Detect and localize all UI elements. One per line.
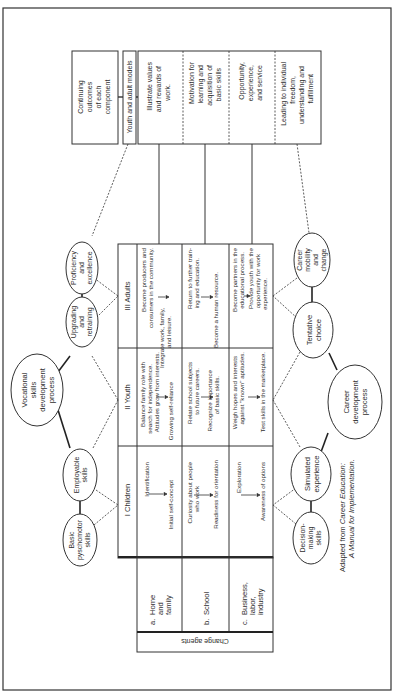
cell-youth-business: Weigh hopes and interests against "known… xyxy=(231,352,266,433)
svg-text:to future careers.: to future careers. xyxy=(193,368,200,415)
change-agent-school: b. School xyxy=(202,591,211,625)
change-agent-home-family: a. Home and family xyxy=(148,595,173,625)
cell-adults-home: Become producers and consumers in the co… xyxy=(140,247,172,368)
stage-header-youth: II Youth xyxy=(123,384,132,409)
svg-text:Illustrate values: Illustrate values xyxy=(146,62,153,111)
career-education-diagram: Continuing outcomes of each component Yo… xyxy=(0,0,394,693)
svg-text:Growing self-reliance: Growing self-reliance xyxy=(167,381,174,440)
svg-text:b.: b. xyxy=(202,619,211,625)
svg-text:Readiness for orientation: Readiness for orientation xyxy=(212,459,219,528)
svg-text:Return to further train-: Return to further train- xyxy=(186,248,193,309)
svg-text:c.: c. xyxy=(240,619,249,625)
svg-text:freedom,: freedom, xyxy=(289,76,296,104)
svg-text:Vocational: Vocational xyxy=(20,372,29,407)
svg-text:skills: skills xyxy=(84,532,91,548)
svg-text:experience: experience xyxy=(312,455,321,492)
citation: Adapted from Career Education: A Manual … xyxy=(338,459,356,572)
svg-text:component: component xyxy=(104,80,112,115)
node-tentative-choice-text: Tentative choice xyxy=(305,315,323,345)
change-agents-label: Change agents xyxy=(181,637,229,645)
svg-text:experience.: experience. xyxy=(261,278,268,310)
svg-text:Become a human resource.: Become a human resource. xyxy=(212,272,219,348)
svg-text:development: development xyxy=(351,379,360,423)
cell-adults-school: Return to further train- ing and educati… xyxy=(186,248,219,348)
svg-text:Exploration: Exploration xyxy=(235,461,242,493)
svg-text:Become partners in the: Become partners in the xyxy=(231,247,238,312)
svg-text:Provide youth with the: Provide youth with the xyxy=(247,247,254,308)
svg-text:and: and xyxy=(312,254,319,266)
svg-text:Curiosity about people: Curiosity about people xyxy=(186,461,193,523)
svg-text:making: making xyxy=(307,527,315,550)
svg-text:pyschomotor: pyschomotor xyxy=(76,519,84,560)
svg-text:skills: skills xyxy=(81,467,88,483)
svg-text:and rewards of: and rewards of xyxy=(155,66,162,112)
svg-text:Simulated: Simulated xyxy=(303,457,312,491)
svg-text:Decision-: Decision- xyxy=(299,523,306,553)
svg-text:Continuing: Continuing xyxy=(77,80,85,114)
outer-frame xyxy=(3,8,391,690)
outcome-illustrate-values: Illustrate values and rewards of work. xyxy=(146,62,171,113)
svg-text:educational process.: educational process. xyxy=(238,252,245,309)
cell-children-school: Curiosity about people who work Readines… xyxy=(186,459,219,528)
svg-text:Adapted from Career Education:: Adapted from Career Education: xyxy=(338,463,347,572)
svg-text:Motivation for: Motivation for xyxy=(188,61,195,104)
svg-text:Tentative: Tentative xyxy=(305,315,314,345)
svg-text:Upgrading: Upgrading xyxy=(70,306,78,338)
svg-text:Balance family role with: Balance family role with xyxy=(139,361,146,427)
cell-children-home: Identification Initial self-concept xyxy=(143,461,174,529)
svg-text:Basic: Basic xyxy=(68,531,75,549)
stage-header-children: I Children xyxy=(123,484,132,517)
svg-text:Attitudes grow from interests.: Attitudes grow from interests. xyxy=(153,352,160,432)
cell-youth-home: Balance family role with search for inde… xyxy=(139,352,174,440)
svg-text:process: process xyxy=(47,377,56,404)
outcome-motivation: Motivation for learning and acquisition … xyxy=(188,61,222,106)
svg-text:who work: who work xyxy=(193,485,200,513)
svg-text:Relate school subjects: Relate school subjects xyxy=(186,362,193,424)
svg-text:change: change xyxy=(320,248,328,271)
svg-text:choice: choice xyxy=(314,319,323,341)
svg-text:fulfillment: fulfillment xyxy=(307,74,314,104)
svg-text:ing and education.: ing and education. xyxy=(193,258,200,309)
svg-text:Awareness of options: Awareness of options xyxy=(259,462,266,521)
svg-text:mobility: mobility xyxy=(304,248,312,272)
svg-text:Become producers and: Become producers and xyxy=(140,247,147,312)
svg-text:Weigh hopes and interests: Weigh hopes and interests xyxy=(231,356,238,429)
svg-text:process: process xyxy=(360,389,369,416)
cell-children-business: Exploration Awareness of options xyxy=(235,461,266,521)
outcome-opportunity: Opportunity, experience, and service xyxy=(238,62,263,101)
svg-text:Test skills in the marketplace: Test skills in the marketplace. xyxy=(259,352,266,433)
svg-text:search for independence.: search for independence. xyxy=(146,364,153,434)
svg-text:Identification: Identification xyxy=(143,461,150,496)
svg-text:skills: skills xyxy=(29,382,38,399)
youth-adult-models-label: Youth and adult models xyxy=(126,60,133,133)
stage-header-adults: III Adults xyxy=(123,281,132,310)
node-employable-skills xyxy=(63,449,97,501)
svg-text:experience,: experience, xyxy=(247,65,255,101)
svg-text:Career: Career xyxy=(296,249,303,271)
svg-text:Employable: Employable xyxy=(73,457,81,494)
cell-adults-business: Become partners in the educational proce… xyxy=(231,247,268,312)
svg-text:opportunity for work: opportunity for work xyxy=(254,253,261,308)
svg-text:family: family xyxy=(164,595,173,615)
svg-text:skills: skills xyxy=(315,530,322,546)
svg-text:of each: of each xyxy=(95,85,102,108)
svg-text:industry: industry xyxy=(256,588,265,615)
svg-text:of basic skills.: of basic skills. xyxy=(213,376,220,414)
svg-text:and: and xyxy=(78,262,85,274)
diagram-svg: Continuing outcomes of each component Yo… xyxy=(0,0,394,693)
svg-text:Proficiency: Proficiency xyxy=(70,250,78,285)
svg-text:A Manual for Implementation.: A Manual for Implementation. xyxy=(347,459,356,559)
svg-text:excellence: excellence xyxy=(86,251,93,284)
svg-text:Opportunity,: Opportunity, xyxy=(238,62,246,100)
svg-text:learning and: learning and xyxy=(197,65,205,104)
svg-text:Career: Career xyxy=(342,390,351,414)
svg-text:basic skills: basic skills xyxy=(215,68,222,102)
svg-text:Initial self-concept: Initial self-concept xyxy=(167,480,174,530)
svg-text:Recognize importance: Recognize importance xyxy=(206,369,213,431)
svg-text:acquisition of: acquisition of xyxy=(206,65,214,106)
svg-text:understanding and: understanding and xyxy=(298,66,306,124)
continuing-outcomes-text: Continuing outcomes of each component xyxy=(77,80,112,115)
svg-text:work.: work. xyxy=(164,84,171,102)
svg-text:outcomes: outcomes xyxy=(86,81,93,112)
change-agent-business: c. Business, labor, industry xyxy=(240,582,265,625)
